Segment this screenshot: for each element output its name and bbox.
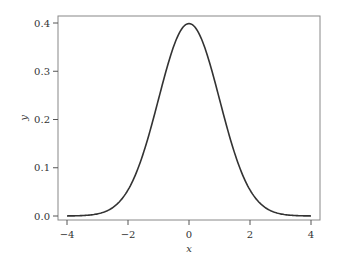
chart: 0.00.10.20.30.4 −4−2024 x y	[0, 0, 340, 266]
x-tick-label: 0	[186, 229, 192, 240]
x-tick-label: 4	[308, 229, 314, 240]
density-curve	[67, 24, 311, 216]
y-axis-label: y	[18, 115, 29, 122]
y-tick-label: 0.4	[34, 18, 50, 29]
y-axis-ticks: 0.00.10.20.30.4	[34, 18, 58, 222]
y-tick-label: 0.3	[34, 66, 50, 77]
x-tick-label: 2	[247, 229, 253, 240]
x-axis-label: x	[186, 243, 192, 254]
y-tick-label: 0.2	[34, 114, 50, 125]
x-tick-label: −4	[60, 229, 75, 240]
y-tick-label: 0.1	[34, 162, 50, 173]
x-axis-ticks: −4−2024	[60, 220, 315, 240]
plot-frame	[58, 16, 320, 220]
x-tick-label: −2	[121, 229, 136, 240]
y-tick-label: 0.0	[34, 211, 50, 222]
